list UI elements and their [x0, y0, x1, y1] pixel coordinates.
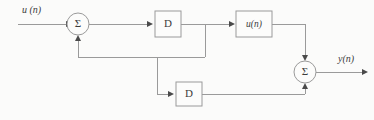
arrowhead-summer-right-upper: [302, 55, 308, 61]
block-diagram-figure: Σ D u(n) D Σ u (n) y(n): [0, 0, 374, 120]
arrowhead-summer-left-feedback: [75, 35, 81, 41]
delay-block-bottom-label: D: [185, 87, 193, 99]
delay-block-top-label: D: [164, 17, 172, 29]
arrowhead-delay-bottom-input: [168, 91, 174, 97]
signal-block-middle-label: u(n): [246, 19, 262, 30]
summing-junction-left-symbol: Σ: [75, 17, 81, 29]
arrowhead-output: [362, 69, 368, 75]
input-signal-label: u (n): [22, 4, 42, 16]
arrowhead-delay-top-input: [147, 21, 153, 27]
arrowhead-summer-right-lower: [302, 83, 308, 89]
diagram-canvas: Σ D u(n) D Σ u (n) y(n): [0, 0, 374, 120]
arrowhead-block-middle-input: [229, 21, 235, 27]
summing-junction-right-symbol: Σ: [302, 65, 308, 77]
output-signal-label: y(n): [337, 53, 355, 65]
